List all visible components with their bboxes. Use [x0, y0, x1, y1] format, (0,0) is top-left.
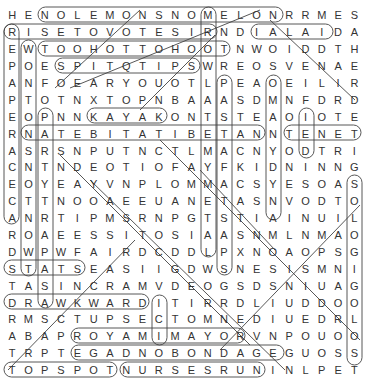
grid-cell[interactable]: H [346, 41, 362, 58]
grid-cell[interactable]: L [200, 243, 216, 260]
grid-cell[interactable]: T [330, 193, 346, 210]
grid-cell[interactable]: S [265, 277, 281, 294]
grid-cell[interactable]: P [102, 311, 118, 328]
grid-cell[interactable]: T [167, 294, 183, 311]
grid-cell[interactable]: M [200, 311, 216, 328]
grid-cell[interactable]: S [102, 227, 118, 244]
grid-cell[interactable]: S [330, 243, 346, 260]
grid-cell[interactable]: D [297, 142, 313, 159]
grid-cell[interactable]: D [330, 24, 346, 41]
grid-cell[interactable]: D [134, 243, 150, 260]
grid-cell[interactable]: A [346, 24, 362, 41]
grid-cell[interactable]: I [281, 260, 297, 277]
grid-cell[interactable]: Y [265, 142, 281, 159]
grid-cell[interactable]: E [85, 7, 101, 24]
grid-cell[interactable]: D [297, 41, 313, 58]
grid-cell[interactable]: A [281, 243, 297, 260]
grid-cell[interactable]: S [346, 345, 362, 362]
grid-cell[interactable]: R [20, 345, 36, 362]
grid-cell[interactable]: O [248, 7, 264, 24]
grid-cell[interactable]: D [314, 91, 330, 108]
grid-cell[interactable]: W [200, 58, 216, 75]
grid-cell[interactable]: D [265, 159, 281, 176]
grid-cell[interactable]: A [20, 277, 36, 294]
grid-cell[interactable]: D [314, 193, 330, 210]
grid-cell[interactable]: O [69, 193, 85, 210]
grid-cell[interactable]: S [37, 24, 53, 41]
grid-cell[interactable]: H [167, 41, 183, 58]
grid-cell[interactable]: T [330, 108, 346, 125]
grid-cell[interactable]: T [134, 41, 150, 58]
grid-cell[interactable]: P [314, 243, 330, 260]
grid-cell[interactable]: S [167, 362, 183, 379]
grid-cell[interactable]: S [248, 193, 264, 210]
grid-cell[interactable]: S [232, 227, 248, 244]
grid-cell[interactable]: T [134, 58, 150, 75]
grid-cell[interactable]: T [216, 125, 232, 142]
grid-cell[interactable]: V [102, 176, 118, 193]
grid-cell[interactable]: R [281, 7, 297, 24]
grid-cell[interactable]: B [167, 91, 183, 108]
grid-cell[interactable]: N [53, 193, 69, 210]
grid-cell[interactable]: G [346, 159, 362, 176]
grid-cell[interactable]: I [265, 311, 281, 328]
grid-cell[interactable]: E [297, 311, 313, 328]
grid-cell[interactable]: E [281, 176, 297, 193]
grid-cell[interactable]: T [151, 125, 167, 142]
grid-cell[interactable]: U [102, 142, 118, 159]
grid-cell[interactable]: O [53, 7, 69, 24]
grid-cell[interactable]: O [314, 345, 330, 362]
grid-cell[interactable]: F [37, 75, 53, 92]
grid-cell[interactable]: T [216, 193, 232, 210]
grid-cell[interactable]: A [216, 227, 232, 244]
grid-cell[interactable]: N [248, 362, 264, 379]
grid-cell[interactable]: O [53, 75, 69, 92]
grid-cell[interactable]: D [167, 243, 183, 260]
grid-cell[interactable]: N [20, 159, 36, 176]
grid-cell[interactable]: O [297, 328, 313, 345]
grid-cell[interactable]: G [346, 243, 362, 260]
grid-cell[interactable]: A [183, 91, 199, 108]
grid-cell[interactable]: N [69, 277, 85, 294]
grid-cell[interactable]: T [134, 24, 150, 41]
grid-cell[interactable]: A [37, 125, 53, 142]
grid-cell[interactable]: L [346, 210, 362, 227]
grid-cell[interactable]: N [69, 91, 85, 108]
grid-cell[interactable]: M [134, 328, 150, 345]
grid-cell[interactable]: T [167, 311, 183, 328]
grid-cell[interactable]: R [4, 227, 20, 244]
grid-cell[interactable]: A [265, 108, 281, 125]
grid-cell[interactable]: E [183, 277, 199, 294]
grid-cell[interactable]: O [297, 193, 313, 210]
grid-cell[interactable]: C [4, 193, 20, 210]
grid-cell[interactable]: D [167, 277, 183, 294]
grid-cell[interactable]: O [346, 294, 362, 311]
grid-cell[interactable]: D [69, 159, 85, 176]
grid-cell[interactable]: S [167, 24, 183, 41]
grid-cell[interactable]: R [151, 362, 167, 379]
grid-cell[interactable]: D [248, 91, 264, 108]
grid-cell[interactable]: R [118, 294, 134, 311]
grid-cell[interactable]: D [314, 311, 330, 328]
grid-cell[interactable]: A [297, 24, 313, 41]
grid-cell[interactable]: O [167, 75, 183, 92]
grid-cell[interactable]: O [183, 41, 199, 58]
grid-cell[interactable]: E [248, 260, 264, 277]
grid-cell[interactable]: F [167, 159, 183, 176]
grid-cell[interactable]: E [297, 125, 313, 142]
grid-cell[interactable]: A [248, 75, 264, 92]
grid-cell[interactable]: U [314, 210, 330, 227]
grid-cell[interactable]: N [53, 159, 69, 176]
grid-cell[interactable]: N [314, 58, 330, 75]
grid-cell[interactable]: N [183, 193, 199, 210]
grid-cell[interactable]: N [314, 125, 330, 142]
grid-cell[interactable]: E [232, 311, 248, 328]
grid-cell[interactable]: I [85, 58, 101, 75]
grid-cell[interactable]: Y [200, 328, 216, 345]
grid-cell[interactable]: A [265, 24, 281, 41]
grid-cell[interactable]: O [20, 58, 36, 75]
grid-cell[interactable]: T [20, 91, 36, 108]
grid-cell[interactable]: S [118, 311, 134, 328]
grid-cell[interactable]: L [200, 75, 216, 92]
grid-cell[interactable]: S [297, 260, 313, 277]
